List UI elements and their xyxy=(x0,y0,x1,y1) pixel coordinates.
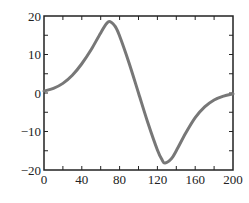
y-tick-label: 10 xyxy=(28,47,41,62)
line-chart: 0408012016020020100−10−20 xyxy=(0,0,249,203)
y-tick-label: −20 xyxy=(21,163,41,178)
x-tick-label: 120 xyxy=(148,172,168,187)
x-tick-label: 40 xyxy=(75,172,88,187)
y-tick-label: −10 xyxy=(21,124,41,139)
x-tick-label: 0 xyxy=(41,172,48,187)
y-tick-label: 0 xyxy=(35,86,42,101)
x-tick-label: 160 xyxy=(185,172,205,187)
tick-labels: 0408012016020020100−10−20 xyxy=(21,9,243,188)
x-tick-label: 200 xyxy=(223,172,243,187)
x-tick-label: 80 xyxy=(113,172,126,187)
data-series-curve xyxy=(44,22,233,164)
y-tick-label: 20 xyxy=(28,9,41,24)
